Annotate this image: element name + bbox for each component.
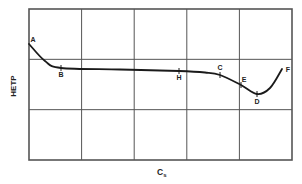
point-label-f: F [286, 66, 291, 73]
x-axis-label-subscript: s [163, 172, 167, 178]
y-axis-label: HETP [9, 75, 18, 97]
x-axis-label: Cs [157, 167, 167, 178]
hetp-chart: ABHCEDF HETP Cs [0, 0, 302, 184]
point-label-c: C [217, 64, 222, 71]
hetp-curve [29, 44, 282, 94]
point-label-b: B [58, 71, 63, 78]
point-label-a: A [30, 36, 35, 43]
grid-lines [29, 9, 292, 160]
point-label-h: H [176, 74, 181, 81]
plot-frame [29, 9, 292, 160]
point-label-d: D [254, 98, 259, 105]
point-label-e: E [242, 76, 247, 83]
